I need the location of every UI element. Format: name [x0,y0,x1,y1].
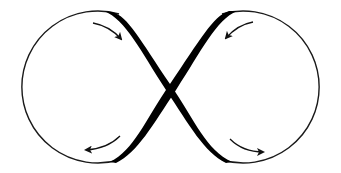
figure-eight-diagram [0,0,341,173]
left-loop [22,11,119,163]
arrow-bottom-left [86,136,120,150]
right-loop [222,11,319,163]
crossing-strand-ascending [110,11,237,163]
arrow-top-right [226,22,253,38]
arrow-top-left [93,23,121,39]
arrow-bottom-right [230,139,263,152]
